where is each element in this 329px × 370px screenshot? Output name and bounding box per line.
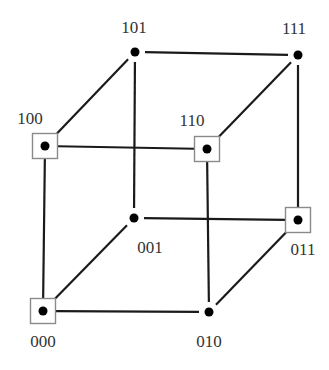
node-dot-000: [39, 307, 48, 316]
edges-layer: [43, 52, 298, 312]
node-dot-100: [41, 142, 50, 151]
node-dot-101: [131, 48, 140, 57]
node-111: [294, 51, 303, 60]
edge-001-011: [144, 218, 286, 220]
hypercube-diagram: 000001010011100101110111: [0, 0, 329, 370]
edge-000-001: [55, 225, 127, 298]
edge-101-111: [145, 52, 288, 55]
edge-100-110: [58, 146, 195, 149]
node-label-001: 001: [137, 238, 163, 257]
node-label-010: 010: [196, 332, 222, 351]
edge-000-010: [56, 311, 200, 312]
node-label-000: 000: [30, 332, 56, 351]
node-dot-011: [294, 216, 303, 225]
edge-110-111: [219, 62, 291, 136]
node-011: [286, 208, 311, 233]
edge-010-011: [216, 233, 286, 305]
node-dot-111: [294, 51, 303, 60]
node-000: [31, 299, 56, 324]
edge-000-100: [43, 159, 45, 299]
node-001: [130, 214, 139, 223]
node-100: [33, 134, 58, 159]
node-dot-110: [203, 145, 212, 154]
node-dot-010: [205, 308, 214, 317]
node-label-111: 111: [282, 19, 306, 38]
node-label-110: 110: [180, 111, 205, 130]
node-label-101: 101: [121, 18, 147, 37]
node-label-100: 100: [17, 109, 43, 128]
node-110: [195, 137, 220, 162]
node-101: [131, 48, 140, 57]
node-label-011: 011: [291, 240, 316, 259]
node-010: [205, 308, 214, 317]
node-dot-001: [130, 214, 139, 223]
edge-110-010: [207, 162, 209, 303]
edge-100-101: [57, 59, 128, 133]
labels-layer: 000001010011100101110111: [17, 18, 315, 351]
edge-101-001: [134, 62, 135, 208]
